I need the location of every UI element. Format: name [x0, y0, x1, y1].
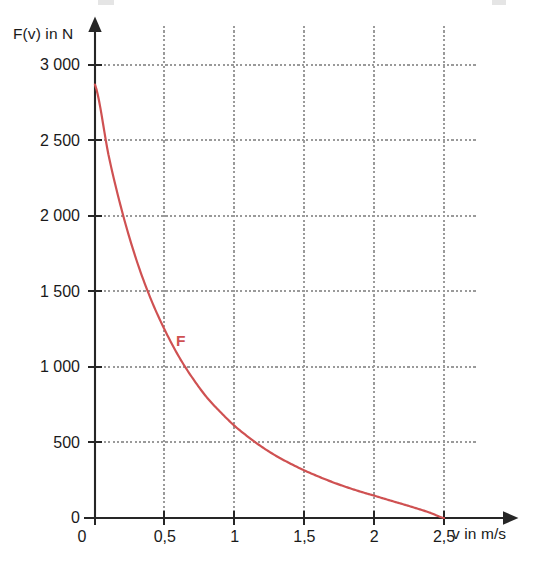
x-axis-title: v in m/s: [452, 525, 506, 543]
data-series-F-curve: [95, 85, 444, 518]
y-axis-title: F(v) in N: [13, 25, 73, 43]
y-tick-label: 500: [0, 434, 80, 452]
y-tick-label: 2 000: [0, 207, 80, 225]
grid-lines-vertical: [164, 26, 444, 518]
chart-plot-area: [0, 0, 560, 565]
x-tick-label: 0,5: [154, 528, 176, 546]
x-tick-label: 0: [78, 528, 87, 546]
x-tick-label: 2: [370, 528, 379, 546]
x-tick-label: 2,5: [433, 528, 455, 546]
x-tick-label: 1,5: [293, 528, 315, 546]
y-tick-label: 3 000: [0, 56, 80, 74]
y-tick-label: 1 500: [0, 283, 80, 301]
grid-lines-horizontal: [95, 65, 478, 442]
y-tick-label: 0: [0, 509, 80, 527]
chart-figure: F(v) in N v in m/s 05001 0001 5002 0002 …: [0, 0, 560, 565]
x-tick-label: 1: [230, 528, 239, 546]
y-tick-label: 1 000: [0, 358, 80, 376]
series-label-F: F: [176, 332, 185, 350]
y-tick-label: 2 500: [0, 132, 80, 150]
